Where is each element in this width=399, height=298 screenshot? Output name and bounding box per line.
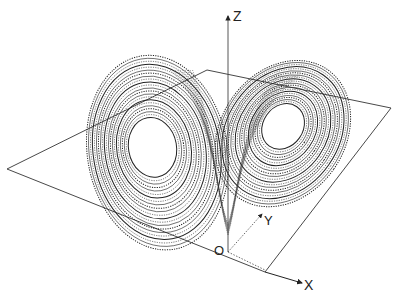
x-projection bbox=[228, 252, 265, 270]
left-lobe-ring bbox=[81, 57, 231, 246]
left-lobe-ring bbox=[94, 74, 217, 227]
right-lobe-ring bbox=[209, 55, 356, 208]
y-axis-label: Y bbox=[264, 214, 273, 227]
x-axis-label: X bbox=[304, 278, 313, 292]
xy-plane bbox=[7, 70, 391, 272]
origin-label: O bbox=[214, 244, 224, 257]
attractor-trajectories bbox=[72, 34, 379, 261]
right-lobe-ring bbox=[200, 46, 366, 219]
right-lobe-ring bbox=[197, 43, 369, 222]
right-lobe-ring bbox=[206, 52, 360, 212]
right-lobe-ring bbox=[191, 37, 376, 229]
lorenz-attractor-diagram bbox=[0, 0, 399, 298]
x-axis bbox=[265, 272, 302, 283]
left-lobe-ring bbox=[74, 47, 240, 257]
left-lobe-ring bbox=[111, 97, 196, 200]
right-lobe-ring bbox=[247, 89, 320, 164]
crossing-strand bbox=[175, 70, 295, 233]
y-axis bbox=[228, 214, 262, 252]
z-axis-label: Z bbox=[233, 9, 242, 23]
